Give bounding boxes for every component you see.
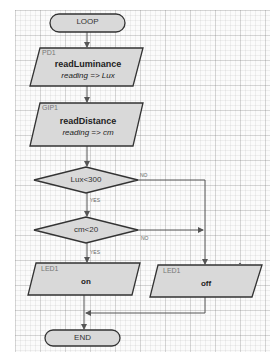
gip1-assignment: reading => cm	[36, 128, 140, 137]
loop-label: LOOP	[50, 17, 125, 26]
led-off-tag: LED1	[163, 267, 181, 274]
decision-cm-yes: YES	[90, 249, 100, 255]
decision-cm-no: NO	[141, 235, 149, 241]
pd1-tag: PD1	[42, 49, 56, 56]
led-on-value: on	[34, 277, 138, 286]
led-off-value: off	[154, 279, 258, 288]
end-label: END	[45, 333, 120, 342]
arrow-d1-no	[138, 180, 205, 264]
gip1-function: readDistance	[36, 116, 140, 126]
pd1-function: readLuminance	[36, 59, 140, 69]
anchor-dot-icon	[239, 263, 241, 265]
led-on-tag: LED1	[41, 265, 59, 272]
decision-lux-no: NO	[140, 172, 148, 178]
decision-lux-label: Lux<300	[56, 175, 116, 184]
arrow-off-merge	[86, 297, 205, 313]
decision-cm-label: cm<20	[56, 225, 116, 234]
pd1-assignment: reading => Lux	[36, 71, 140, 80]
gip1-tag: GIP1	[42, 104, 58, 111]
decision-lux-yes: YES	[90, 197, 100, 203]
